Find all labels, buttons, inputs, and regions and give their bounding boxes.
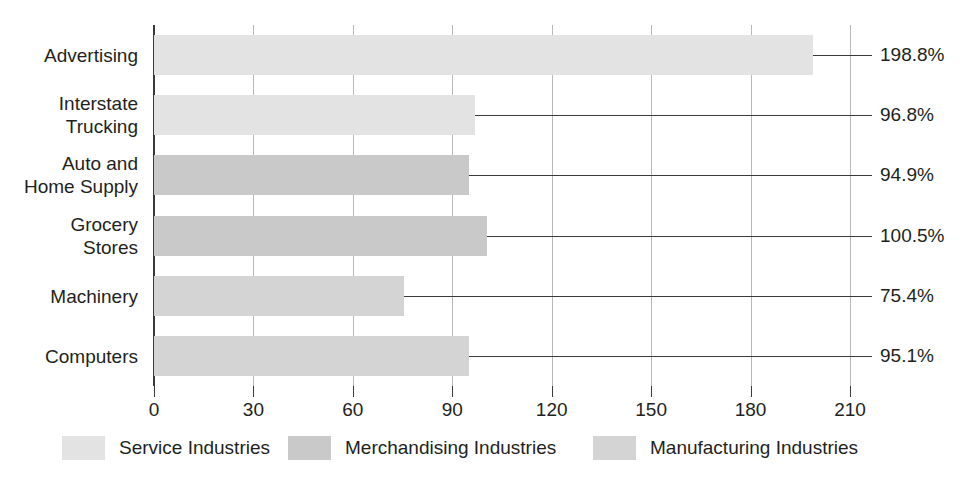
x-tick-label: 30 [243,399,264,421]
leader-line [813,55,872,56]
gridline-150 [651,25,652,386]
x-tick-180 [751,386,752,397]
bar[interactable] [154,35,813,75]
gridline-180 [751,25,752,386]
category-label-text: Advertising [44,44,138,67]
legend-item[interactable]: Service Industries [62,436,270,460]
x-tick-0 [154,386,155,397]
gridline-30 [253,25,254,386]
legend-item[interactable]: Manufacturing Industries [593,436,858,460]
chart-legend: Service IndustriesMerchandising Industri… [0,436,964,470]
category-label: Advertising [0,35,154,75]
value-label: 198.8% [880,45,944,64]
x-tick-label: 90 [442,399,463,421]
legend-label: Manufacturing Industries [650,437,858,459]
bar[interactable] [154,276,404,316]
gridline-210 [850,25,851,386]
legend-label: Service Industries [119,437,270,459]
legend-swatch-icon [593,436,636,460]
gridline-60 [353,25,354,386]
bar[interactable] [154,216,487,256]
bar-row [154,35,850,75]
category-label: Interstate Trucking [0,95,154,135]
leader-line [487,236,872,237]
x-tick-30 [253,386,254,397]
leader-line [469,175,872,176]
category-label-text: Machinery [50,284,138,307]
x-tick-label: 120 [536,399,568,421]
bar[interactable] [154,155,469,195]
x-tick-label: 150 [635,399,667,421]
bar[interactable] [154,336,469,376]
gridline-120 [552,25,553,386]
category-label-text: Interstate Trucking [59,92,138,138]
x-tick-label: 180 [735,399,767,421]
value-label: 75.4% [880,286,934,305]
x-tick-150 [651,386,652,397]
category-label: Auto and Home Supply [0,155,154,195]
category-label: Computers [0,336,154,376]
value-axis-line [153,25,155,386]
category-label-text: Auto and Home Supply [24,152,138,198]
x-tick-label: 210 [834,399,866,421]
legend-swatch-icon [62,436,105,460]
leader-line [404,296,872,297]
bar[interactable] [154,95,475,135]
category-label: Machinery [0,276,154,316]
leader-line [469,356,872,357]
x-tick-label: 60 [342,399,363,421]
x-tick-90 [452,386,453,397]
legend-item[interactable]: Merchandising Industries [288,436,556,460]
bar-chart: AdvertisingInterstate TruckingAuto and H… [0,0,964,482]
value-label: 95.1% [880,346,934,365]
gridline-90 [452,25,453,386]
legend-label: Merchandising Industries [345,437,556,459]
category-label-text: Computers [45,344,138,367]
category-label: Grocery Stores [0,216,154,256]
value-label: 100.5% [880,226,944,245]
x-tick-60 [353,386,354,397]
value-label: 94.9% [880,165,934,184]
leader-line [475,115,872,116]
x-tick-label: 0 [149,399,160,421]
category-label-text: Grocery Stores [70,213,138,259]
plot-area [154,25,850,386]
legend-swatch-icon [288,436,331,460]
value-label: 96.8% [880,105,934,124]
x-tick-120 [552,386,553,397]
x-tick-210 [850,386,851,397]
